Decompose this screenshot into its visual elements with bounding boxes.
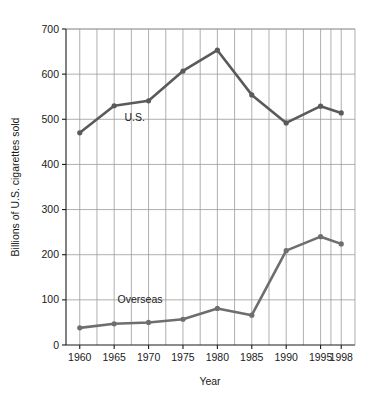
data-point bbox=[249, 313, 254, 318]
data-point bbox=[284, 248, 289, 253]
x-tick-label-1970: 1970 bbox=[137, 351, 161, 363]
y-tick-label-500: 500 bbox=[41, 113, 59, 125]
x-axis-title: Year bbox=[199, 375, 221, 387]
data-point bbox=[339, 110, 344, 115]
data-point bbox=[180, 317, 185, 322]
data-point bbox=[180, 68, 185, 73]
chart-background bbox=[0, 0, 368, 393]
x-tick-label-1965: 1965 bbox=[102, 351, 126, 363]
data-point bbox=[215, 48, 220, 53]
line-chart: 0100200300400500600700 19601965197019751… bbox=[0, 0, 368, 393]
data-point bbox=[146, 98, 151, 103]
data-point bbox=[215, 306, 220, 311]
y-tick-label-300: 300 bbox=[41, 203, 59, 215]
x-tick-label-1975: 1975 bbox=[171, 351, 195, 363]
us-series-label: U.S. bbox=[124, 111, 144, 123]
y-axis-title: Billions of U.S. cigarettes sold bbox=[9, 117, 21, 256]
y-tick-label-0: 0 bbox=[53, 339, 59, 351]
data-point bbox=[77, 130, 82, 135]
data-point bbox=[77, 325, 82, 330]
data-point bbox=[112, 321, 117, 326]
data-point bbox=[249, 92, 254, 97]
x-tick-label-1985: 1985 bbox=[240, 351, 264, 363]
data-point bbox=[146, 320, 151, 325]
overseas-series-label: Overseas bbox=[118, 293, 163, 305]
x-tick-label-1990: 1990 bbox=[275, 351, 299, 363]
y-tick-label-200: 200 bbox=[41, 248, 59, 260]
data-point bbox=[318, 104, 323, 109]
data-point bbox=[318, 234, 323, 239]
x-tick-label-1998: 1998 bbox=[330, 351, 354, 363]
y-tick-label-600: 600 bbox=[41, 68, 59, 80]
y-tick-label-400: 400 bbox=[41, 158, 59, 170]
y-tick-label-700: 700 bbox=[41, 23, 59, 35]
x-tick-label-1960: 1960 bbox=[68, 351, 92, 363]
data-point bbox=[339, 241, 344, 246]
x-axis-tick-labels: 196019651970197519801985199019951998 bbox=[68, 351, 353, 363]
data-point bbox=[284, 120, 289, 125]
x-tick-label-1980: 1980 bbox=[206, 351, 230, 363]
y-tick-label-100: 100 bbox=[41, 293, 59, 305]
data-point bbox=[112, 103, 117, 108]
chart-canvas: 0100200300400500600700 19601965197019751… bbox=[0, 0, 368, 393]
